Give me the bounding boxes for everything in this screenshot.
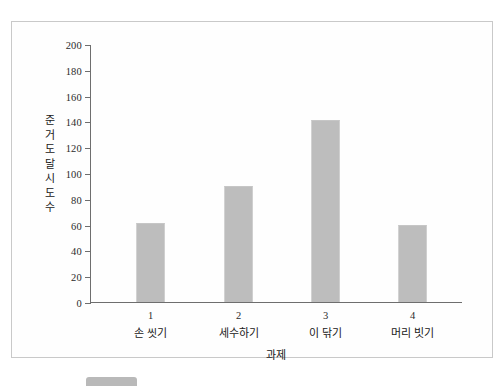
x-category-name: 손 씻기 bbox=[134, 324, 167, 340]
bar-category-2 bbox=[224, 186, 253, 302]
y-axis-title-char-3: 도 bbox=[41, 142, 59, 157]
y-tick-label: 60 bbox=[71, 220, 82, 231]
y-tick-mark bbox=[85, 200, 91, 201]
y-axis-title-char-5: 시 bbox=[41, 171, 59, 186]
plot-area: 0 20 40 60 80 100 bbox=[90, 45, 462, 303]
x-axis-category-1: 1 손 씻기 bbox=[134, 303, 167, 340]
x-category-name: 세수하기 bbox=[219, 324, 259, 340]
x-category-name: 이 닦기 bbox=[309, 324, 342, 340]
bar-category-3 bbox=[311, 120, 340, 302]
y-tick-mark bbox=[85, 251, 91, 252]
bar-category-4 bbox=[398, 225, 427, 302]
y-tick-mark bbox=[85, 71, 91, 72]
y-axis-title: 준 거 도 달 시 도 수 bbox=[41, 113, 59, 215]
y-tick-mark bbox=[85, 97, 91, 98]
x-axis-category-3: 3 이 닦기 bbox=[309, 303, 342, 340]
scan-edge-artifact bbox=[86, 377, 137, 386]
x-category-number: 2 bbox=[219, 310, 259, 321]
x-axis-category-4: 4 머리 빗기 bbox=[391, 303, 434, 340]
y-axis-title-char-2: 거 bbox=[41, 128, 59, 143]
x-axis-title: 과제 bbox=[90, 346, 462, 362]
y-tick-label: 200 bbox=[66, 40, 82, 51]
bar-chart: 준 거 도 달 시 도 수 0 20 40 bbox=[11, 21, 493, 358]
y-tick-mark bbox=[85, 174, 91, 175]
x-category-number: 3 bbox=[309, 310, 342, 321]
y-axis-title-char-1: 준 bbox=[41, 113, 59, 128]
y-tick-label: 120 bbox=[66, 143, 82, 154]
y-axis-title-char-4: 달 bbox=[41, 157, 59, 172]
x-category-number: 4 bbox=[391, 310, 434, 321]
y-tick-mark bbox=[85, 226, 91, 227]
y-axis-title-char-7: 수 bbox=[41, 200, 59, 215]
y-tick-mark bbox=[85, 303, 91, 304]
y-tick-mark bbox=[85, 277, 91, 278]
y-tick-label: 40 bbox=[71, 246, 82, 257]
y-tick-mark bbox=[85, 148, 91, 149]
y-axis-title-char-6: 도 bbox=[41, 186, 59, 201]
y-tick-label: 180 bbox=[66, 65, 82, 76]
y-tick-label: 100 bbox=[66, 169, 82, 180]
x-axis-category-2: 2 세수하기 bbox=[219, 303, 259, 340]
y-tick-label: 140 bbox=[66, 117, 82, 128]
x-category-number: 1 bbox=[134, 310, 167, 321]
y-tick-mark bbox=[85, 45, 91, 46]
bar-category-1 bbox=[136, 223, 165, 302]
x-category-name: 머리 빗기 bbox=[391, 324, 434, 340]
y-tick-label: 0 bbox=[77, 298, 82, 309]
y-tick-label: 160 bbox=[66, 91, 82, 102]
y-tick-mark bbox=[85, 122, 91, 123]
y-tick-label: 80 bbox=[71, 194, 82, 205]
y-tick-label: 20 bbox=[71, 272, 82, 283]
